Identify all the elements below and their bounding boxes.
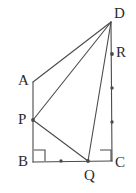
tick-dot-bq-midpoint bbox=[59, 159, 62, 162]
vertex-label-p: P bbox=[18, 112, 26, 127]
right-angles-group bbox=[34, 150, 111, 161]
segment-pq bbox=[33, 120, 88, 161]
tick-dot-dc-lower bbox=[110, 120, 113, 123]
point-dot-q bbox=[86, 159, 90, 163]
segment-bc bbox=[33, 161, 112, 162]
vertex-label-a: A bbox=[18, 73, 29, 88]
geometry-figure: ABCDPQR bbox=[0, 0, 136, 193]
tick-dot-dc-upper bbox=[110, 86, 113, 89]
vertex-label-r: R bbox=[116, 45, 126, 60]
segment-dc bbox=[111, 22, 112, 161]
vertex-label-d: D bbox=[114, 6, 125, 21]
right-angle-mark-c bbox=[100, 150, 111, 161]
vertex-label-c: C bbox=[115, 155, 125, 170]
point-dot-r bbox=[110, 52, 114, 56]
segment-ad bbox=[33, 22, 111, 82]
vertex-label-q: Q bbox=[84, 168, 95, 183]
segment-qd bbox=[88, 22, 111, 161]
vertex-label-b: B bbox=[18, 154, 28, 169]
segments-group bbox=[33, 22, 112, 162]
right-angle-mark-b bbox=[34, 150, 45, 161]
point-dot-p bbox=[31, 118, 35, 122]
segment-pd bbox=[33, 22, 111, 120]
